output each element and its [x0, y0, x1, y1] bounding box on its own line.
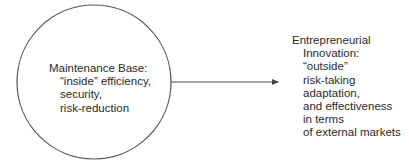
left-label-title: Maintenance Base:	[49, 62, 151, 75]
right-label-line: and effectiveness	[292, 100, 401, 113]
left-label-line: risk-reduction	[49, 102, 151, 115]
entrepreneurial-innovation-label: Entrepreneurial Innovation: “outside” ri…	[292, 34, 401, 140]
right-label-line: risk-taking	[292, 74, 401, 87]
maintenance-base-label: Maintenance Base: “inside” efficiency, s…	[49, 62, 151, 115]
right-label-title: Entrepreneurial	[292, 34, 401, 47]
left-label-line: “inside” efficiency,	[49, 75, 151, 88]
right-label-line: of external markets	[292, 126, 401, 139]
right-label-line: Innovation:	[292, 47, 401, 60]
right-label-line: in terms	[292, 113, 401, 126]
right-label-line: “outside”	[292, 60, 401, 73]
left-label-line: security,	[49, 88, 151, 101]
right-label-line: adaptation,	[292, 87, 401, 100]
